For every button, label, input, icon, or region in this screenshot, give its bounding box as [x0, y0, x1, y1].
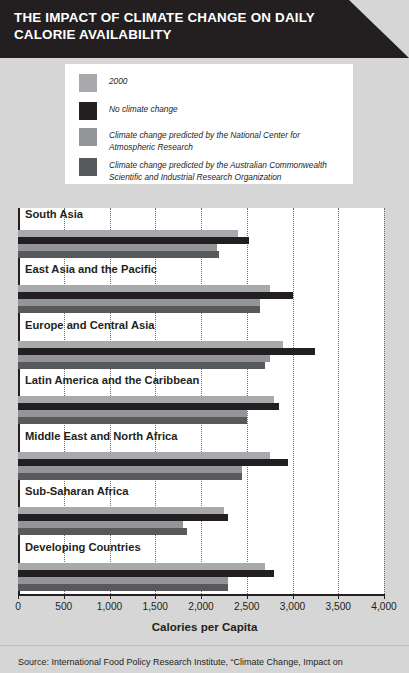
bar	[18, 577, 228, 584]
legend-swatch-icon	[79, 128, 97, 146]
x-axis-tick	[384, 594, 385, 599]
bar	[18, 584, 228, 591]
legend-item-ncar: Climate change predicted by the National…	[79, 128, 300, 153]
bar	[18, 341, 283, 348]
bar	[18, 285, 270, 292]
bar	[18, 244, 217, 251]
x-axis-tick-label: 3,000	[280, 601, 306, 612]
bar	[18, 466, 242, 473]
bar	[18, 417, 247, 424]
x-axis-tick-label: 1,500	[143, 601, 169, 612]
category-label: Developing Countries	[25, 541, 141, 553]
legend-label: Climate change predicted by the Australi…	[109, 158, 327, 183]
source-note: Source: International Food Policy Resear…	[18, 656, 398, 668]
x-axis-title: Calories per Capita	[0, 620, 409, 633]
category-label: East Asia and the Pacific	[25, 263, 157, 275]
x-axis-ticks	[18, 594, 384, 600]
legend-item-2000: 2000	[79, 74, 127, 92]
bar-group: South Asia	[18, 208, 384, 263]
x-axis-tick-label: 1,000	[97, 601, 123, 612]
bar	[18, 230, 238, 237]
source-divider	[0, 645, 409, 646]
legend-swatch-icon	[79, 158, 97, 176]
page-title: THE IMPACT OF CLIMATE CHANGE ON DAILY CA…	[14, 9, 334, 43]
bar-group: Sub-Saharan Africa	[18, 485, 384, 540]
legend-item-csiro: Climate change predicted by the Australi…	[79, 158, 327, 183]
bar	[18, 306, 260, 313]
x-axis-tick	[247, 594, 248, 599]
x-axis-tick	[201, 594, 202, 599]
gridline	[384, 208, 385, 596]
x-axis-tick	[155, 594, 156, 599]
legend-label: Climate change predicted by the National…	[109, 128, 300, 153]
bar	[18, 473, 242, 480]
chart-legend: 2000 No climate change Climate change pr…	[65, 64, 353, 184]
category-label: Sub-Saharan Africa	[25, 485, 128, 497]
x-axis-tick-label: 2,500	[234, 601, 260, 612]
x-axis-tick-label: 4,000	[371, 601, 397, 612]
bar-group: Latin America and the Caribbean	[18, 374, 384, 429]
x-axis-tick	[293, 594, 294, 599]
x-axis-tick-label: 500	[55, 601, 72, 612]
bar	[18, 521, 183, 528]
bar	[18, 403, 279, 410]
x-axis-tick-label: 3,500	[326, 601, 352, 612]
bar	[18, 251, 219, 258]
legend-swatch-icon	[79, 74, 97, 92]
legend-swatch-icon	[79, 102, 97, 120]
bar	[18, 563, 265, 570]
chart-plot-area: South AsiaEast Asia and the PacificEurop…	[18, 208, 384, 596]
bar-chart: South AsiaEast Asia and the PacificEurop…	[18, 208, 384, 596]
legend-label: 2000	[109, 74, 127, 88]
bar	[18, 514, 228, 521]
bar-group: Middle East and North Africa	[18, 430, 384, 485]
bar	[18, 570, 274, 577]
bar-group: Developing Countries	[18, 541, 384, 596]
bar	[18, 507, 224, 514]
x-axis-tick-labels: 05001,0001,5002,0002,5003,0003,5004,000	[0, 601, 409, 615]
bar-group: Europe and Central Asia	[18, 319, 384, 374]
bar	[18, 528, 187, 535]
bar	[18, 237, 249, 244]
bar	[18, 292, 293, 299]
x-axis-tick-label: 2,000	[188, 601, 214, 612]
bar	[18, 348, 315, 355]
legend-item-no-climate-change: No climate change	[79, 102, 178, 120]
x-axis-tick	[64, 594, 65, 599]
legend-label: No climate change	[109, 102, 178, 116]
category-label: South Asia	[25, 208, 83, 220]
header-banner: THE IMPACT OF CLIMATE CHANGE ON DAILY CA…	[0, 0, 409, 58]
bar	[18, 452, 270, 459]
x-axis-tick	[18, 594, 19, 599]
bar	[18, 355, 270, 362]
category-label: Europe and Central Asia	[25, 319, 155, 331]
bar	[18, 396, 274, 403]
bar	[18, 362, 265, 369]
bar	[18, 410, 247, 417]
x-axis-tick-label: 0	[15, 601, 21, 612]
x-axis-tick	[338, 594, 339, 599]
x-axis-tick	[110, 594, 111, 599]
category-label: Middle East and North Africa	[25, 430, 178, 442]
category-label: Latin America and the Caribbean	[25, 374, 199, 386]
bar	[18, 299, 260, 306]
bar	[18, 459, 288, 466]
bar-group: East Asia and the Pacific	[18, 263, 384, 318]
